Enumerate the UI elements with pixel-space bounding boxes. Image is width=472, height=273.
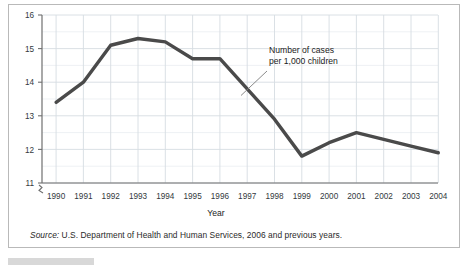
x-tick-label-2004: 2004: [429, 192, 448, 201]
y-tick-label-12: 12: [25, 146, 35, 155]
x-tick-label-1991: 1991: [74, 192, 93, 201]
x-tick-label-2002: 2002: [375, 192, 394, 201]
axis-break-icon: [39, 185, 43, 193]
x-tick-label-1993: 1993: [129, 192, 148, 201]
x-tick-label-1995: 1995: [183, 192, 202, 201]
x-tick-label-2003: 2003: [402, 192, 421, 201]
source-note: Source: U.S. Department of Health and Hu…: [30, 230, 342, 240]
y-tick-label-15: 15: [25, 45, 35, 54]
y-tick-label-11: 11: [26, 179, 35, 188]
source-note-prefix: Source:: [30, 230, 59, 240]
x-tick-label-1994: 1994: [156, 192, 175, 201]
x-tick-label-1996: 1996: [211, 192, 230, 201]
x-axis-title: Year: [207, 208, 225, 218]
y-tick-label-13: 13: [25, 112, 35, 121]
bottom-accent-bar: [8, 258, 94, 265]
figure-panel: 16 15 14 13 12 11 1990 1991 1992 1993 19…: [8, 4, 460, 248]
x-tick-label-1990: 1990: [47, 192, 66, 201]
x-tick-label-1998: 1998: [265, 192, 284, 201]
y-tick-label-16: 16: [25, 11, 35, 20]
y-tick-label-14: 14: [25, 78, 35, 87]
line-chart-svg: 16 15 14 13 12 11 1990 1991 1992 1993 19…: [9, 5, 461, 249]
x-tick-label-2001: 2001: [347, 192, 366, 201]
x-tick-label-1992: 1992: [102, 192, 121, 201]
x-tick-label-2000: 2000: [320, 192, 339, 201]
source-note-text: U.S. Department of Health and Human Serv…: [59, 230, 342, 240]
chart-plot-area: 16 15 14 13 12 11 1990 1991 1992 1993 19…: [9, 5, 461, 249]
annotation-line-2: per 1,000 children: [269, 56, 338, 66]
x-tick-label-1999: 1999: [293, 192, 312, 201]
annotation-line-1: Number of cases: [269, 45, 334, 55]
x-tick-label-1997: 1997: [238, 192, 257, 201]
